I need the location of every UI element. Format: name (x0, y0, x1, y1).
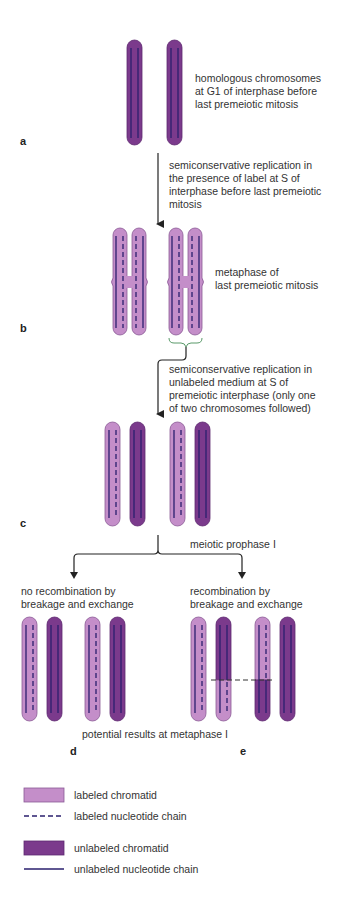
legend-label-labeled-chain: labeled nucleotide chain (74, 810, 187, 823)
panel-a-chromosomes (127, 40, 182, 145)
caption-d: no recombination by breakage and exchang… (21, 585, 134, 611)
caption-step-bc: semiconservative replication in unlabele… (169, 363, 316, 415)
legend-label-labeled-chromatid: labeled chromatid (74, 789, 157, 802)
panel-label-d: d (70, 745, 77, 757)
panel-label-c: c (20, 517, 26, 529)
diagram-canvas (0, 0, 339, 907)
bracket-b (169, 338, 202, 347)
panel-d-chromosomes (22, 617, 125, 721)
legend-symbols (24, 788, 64, 869)
caption-b: metaphase of last premeiotic mitosis (215, 266, 318, 292)
caption-e: recombination by breakage and exchange (190, 585, 303, 611)
caption-a: homologous chromosomes at G1 of interpha… (195, 72, 321, 111)
panel-b-chromosomes (112, 228, 204, 335)
panel-e-chromosomes (191, 617, 295, 721)
caption-c: meiotic prophase I (190, 538, 276, 551)
legend-label-unlabeled-chain: unlabeled nucleotide chain (74, 863, 198, 876)
unlabeled-chromatid-swatch (24, 841, 64, 855)
panel-label-e: e (240, 745, 246, 757)
caption-step-ab: semiconservative replication in the pres… (169, 159, 321, 211)
panel-label-a: a (20, 135, 26, 147)
panel-label-b: b (20, 322, 27, 334)
caption-bottom: potential results at metaphase I (82, 728, 228, 741)
legend-label-unlabeled-chromatid: unlabeled chromatid (74, 842, 169, 855)
labeled-chromatid-swatch (24, 788, 64, 802)
panel-c-chromosomes (105, 422, 210, 526)
